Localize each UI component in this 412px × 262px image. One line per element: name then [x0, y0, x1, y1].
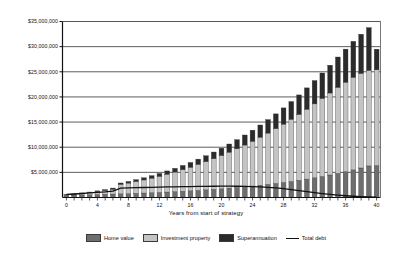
- bar-segment: [211, 189, 216, 197]
- bar-segment: [235, 187, 240, 197]
- bar-segment: [297, 114, 302, 180]
- bar-segment: [219, 148, 224, 155]
- bar-segment: [312, 81, 317, 104]
- bar-segment: [165, 192, 170, 197]
- bar-segment: [157, 173, 162, 176]
- x-axis-title: Years from start of strategy: [0, 210, 412, 216]
- bar-segment: [142, 193, 147, 197]
- bar-segment: [374, 166, 379, 198]
- bar-segment: [165, 174, 170, 192]
- bar-segment: [157, 192, 162, 197]
- bar-segment: [297, 95, 302, 115]
- bar-segment: [149, 176, 154, 179]
- legend-color-swatch: [143, 234, 158, 242]
- bar-segment: [211, 159, 216, 190]
- bar-segment: [227, 152, 232, 188]
- bar-segment: [95, 191, 100, 192]
- bar-segment: [351, 170, 356, 198]
- bar-segment: [165, 171, 170, 174]
- bar-segment: [374, 70, 379, 166]
- bar-segment: [250, 186, 255, 197]
- stacked-bar-chart: [0, 0, 412, 262]
- bar-segment: [297, 180, 302, 197]
- legend-item[interactable]: Home value: [86, 234, 134, 242]
- bar-segment: [273, 183, 278, 197]
- bar-segment: [211, 152, 216, 159]
- y-axis-tick-label: $30,000,000: [8, 43, 58, 49]
- bar-segment: [134, 180, 139, 182]
- legend-label: Home value: [104, 235, 134, 241]
- bar-segment: [118, 183, 123, 184]
- bar-segment: [204, 162, 209, 190]
- y-axis-tick-label: $20,000,000: [8, 94, 58, 100]
- bar-segment: [304, 88, 309, 109]
- bar-segment: [258, 125, 263, 137]
- bar-segment: [304, 179, 309, 197]
- bar-segment: [250, 141, 255, 186]
- x-axis-tick-label: 28: [274, 202, 294, 208]
- bar-segment: [242, 135, 247, 145]
- bar-segment: [242, 145, 247, 187]
- y-axis-tick-label: $35,000,000: [8, 18, 58, 24]
- bar-segment: [273, 114, 278, 129]
- chart-container: $35,000,000$30,000,000$25,000,000$20,000…: [0, 0, 412, 262]
- bar-segment: [126, 181, 131, 183]
- bar-segment: [188, 162, 193, 167]
- bar-segment: [273, 129, 278, 184]
- bar-segment: [180, 191, 185, 197]
- bar-segment: [180, 170, 185, 192]
- x-axis-tick-label: 24: [243, 202, 263, 208]
- bar-segment: [359, 34, 364, 73]
- y-axis-tick-label: $5,000,000: [8, 169, 58, 175]
- legend-item[interactable]: Investment property: [143, 234, 210, 242]
- bar-segment: [351, 41, 356, 77]
- bar-segment: [103, 190, 108, 191]
- legend-item[interactable]: Superannuation: [219, 234, 277, 242]
- bar-segment: [351, 77, 356, 170]
- bar-segment: [258, 137, 263, 185]
- bar-segment: [289, 119, 294, 181]
- x-axis-tick-label: 36: [336, 202, 356, 208]
- y-axis-tick-label: $25,000,000: [8, 69, 58, 75]
- bar-segment: [196, 159, 201, 164]
- bar-segment: [134, 193, 139, 197]
- bar-segment: [320, 98, 325, 176]
- legend-line-marker: [286, 238, 299, 239]
- bar-segment: [173, 172, 178, 192]
- legend-label: Total debt: [302, 235, 326, 241]
- x-axis-tick-label: 32: [305, 202, 325, 208]
- bar-segment: [335, 57, 340, 87]
- bar-segment: [359, 168, 364, 198]
- legend-item[interactable]: Total debt: [286, 235, 326, 241]
- x-axis-tick-label: 16: [180, 202, 200, 208]
- x-axis-tick-label: 20: [212, 202, 232, 208]
- bar-segment: [188, 191, 193, 198]
- x-axis-tick-label: 40: [367, 202, 387, 208]
- bar-segment: [188, 167, 193, 191]
- bar-segment: [204, 190, 209, 198]
- bar-segment: [304, 109, 309, 179]
- bar-segment: [328, 65, 333, 93]
- bar-segment: [142, 178, 147, 180]
- bar-segment: [227, 188, 232, 197]
- bar-segment: [142, 180, 147, 193]
- bar-segment: [335, 173, 340, 197]
- bar-segment: [149, 193, 154, 198]
- bar-segment: [235, 149, 240, 188]
- x-axis-tick-label: 12: [149, 202, 169, 208]
- bar-segment: [343, 172, 348, 198]
- bar-segment: [227, 144, 232, 152]
- bar-segment: [281, 182, 286, 197]
- y-axis-tick-label: $10,000,000: [8, 144, 58, 150]
- legend-color-swatch: [86, 234, 101, 242]
- legend-label: Investment property: [161, 235, 210, 241]
- bar-segment: [111, 188, 116, 189]
- legend-color-swatch: [219, 234, 234, 242]
- bar-segment: [366, 70, 371, 166]
- bar-segment: [180, 165, 185, 169]
- bar-segment: [281, 108, 286, 124]
- bar-segment: [250, 130, 255, 141]
- chart-legend: Home valueInvestment propertySuperannuat…: [0, 234, 412, 242]
- bar-segment: [289, 102, 294, 120]
- bar-segment: [366, 28, 371, 71]
